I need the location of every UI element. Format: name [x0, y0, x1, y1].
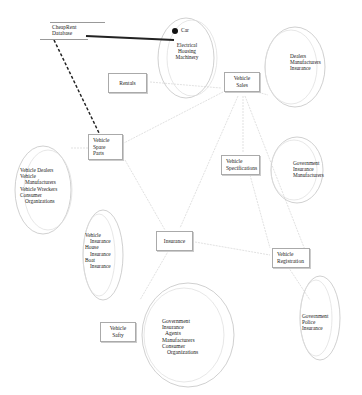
spare-group-label: Vehicle Dealers Vehicle Manufacturers Ve…: [20, 167, 57, 204]
cheaprent-database[interactable]: CheapRent Database: [40, 22, 100, 40]
registration-group-label: Government Police Insurance: [302, 313, 328, 332]
car-label: Car: [181, 27, 189, 33]
top-group-label: Electrical Housing Machinery: [165, 42, 209, 61]
specifications-group-label: Government Insurance Manufacturers: [293, 160, 324, 179]
process-vehicle-spare-parts[interactable]: Vehicle Spare Parts: [88, 134, 123, 160]
safety-group-label: Government Insurance Agents Manufacturer…: [162, 318, 198, 355]
process-rentals[interactable]: Rentals: [108, 73, 147, 93]
process-vehicle-safety[interactable]: Vehicle Safty: [100, 322, 136, 342]
process-vehicle-sales[interactable]: Vehicle Sales: [224, 72, 260, 92]
db-to-spare-flow: [54, 40, 100, 135]
process-vehicle-specifications[interactable]: Vehicle Specifications: [221, 155, 260, 175]
sales-group-label: Dealers Manufacturers Insurance: [290, 53, 321, 72]
process-vehicle-registration[interactable]: Vehicle Registration: [272, 248, 310, 268]
insurance-group-label: Vehicle Insurance House Insurance Boat I…: [85, 232, 111, 269]
db-label-line2: Database: [52, 30, 76, 36]
car-connector: [172, 28, 178, 34]
process-insurance[interactable]: Insurance: [156, 231, 193, 251]
